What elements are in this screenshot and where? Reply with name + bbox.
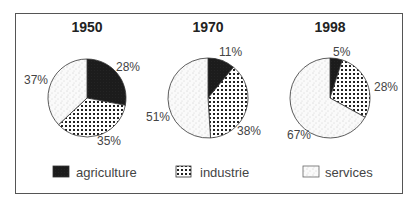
pie-1970	[168, 58, 248, 138]
legend-label: services	[325, 165, 373, 180]
label-1998-industrie: 28%	[374, 80, 398, 94]
legend-item-services: services	[325, 165, 373, 179]
legend-item-industrie: industrie	[200, 165, 249, 179]
label-1950-industrie: 35%	[97, 134, 121, 148]
legend-swatch-services	[303, 166, 319, 177]
legend-swatch-agriculture	[53, 166, 69, 177]
legend-label: industrie	[200, 165, 249, 180]
legend-label: agriculture	[76, 165, 137, 180]
label-1970-industrie: 38%	[237, 124, 261, 138]
slice-services	[168, 58, 211, 138]
legend-swatch-industrie	[176, 166, 191, 177]
label-1950-services: 37%	[24, 73, 48, 87]
label-1970-services: 51%	[146, 110, 170, 124]
chart-title-1998: 1998	[300, 19, 360, 35]
label-1950-agriculture: 28%	[116, 60, 140, 74]
label-1998-services: 67%	[287, 128, 311, 142]
pie-1950	[48, 59, 126, 137]
legend-item-agriculture: agriculture	[76, 165, 137, 179]
pie-1998	[290, 58, 370, 138]
chart-title-1970: 1970	[178, 19, 238, 35]
label-1970-agriculture: 11%	[219, 45, 242, 59]
label-1998-agriculture: 5%	[333, 45, 350, 59]
chart-title-1950: 1950	[57, 19, 117, 35]
